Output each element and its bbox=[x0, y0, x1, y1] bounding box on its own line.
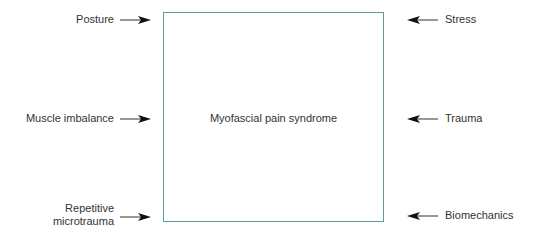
factor-repetitive-microtrauma: Repetitive microtrauma bbox=[53, 202, 114, 228]
factor-label-line1: Repetitive bbox=[53, 202, 114, 215]
factor-label-line2: microtrauma bbox=[53, 215, 114, 228]
factor-posture: Posture bbox=[76, 13, 114, 26]
factor-trauma: Trauma bbox=[445, 112, 483, 125]
factor-stress: Stress bbox=[445, 13, 476, 26]
center-label: Myofascial pain syndrome bbox=[163, 112, 384, 124]
arrow-left-icon bbox=[406, 211, 438, 221]
factor-muscle-imbalance: Muscle imbalance bbox=[26, 112, 114, 125]
arrow-left-icon bbox=[406, 15, 438, 25]
factor-biomechanics: Biomechanics bbox=[445, 209, 513, 222]
arrow-right-icon bbox=[120, 212, 152, 222]
arrow-right-icon bbox=[120, 15, 152, 25]
arrow-right-icon bbox=[120, 114, 152, 124]
arrow-left-icon bbox=[406, 114, 438, 124]
